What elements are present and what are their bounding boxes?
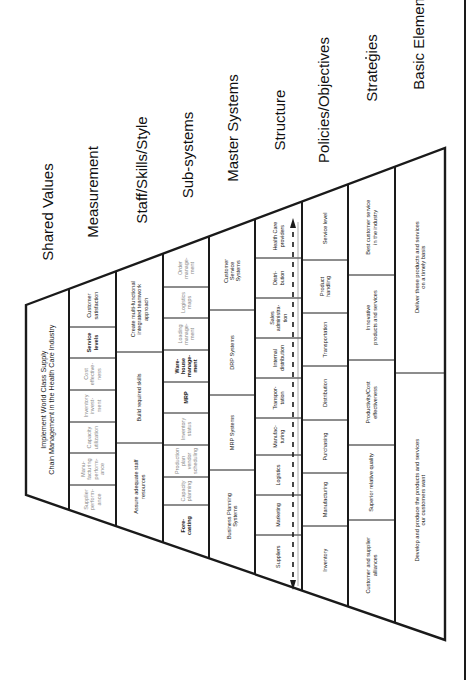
cell-label: approach bbox=[143, 298, 149, 321]
layer-cell: Superior relative quality bbox=[368, 453, 374, 512]
cell-label: levels bbox=[93, 335, 99, 351]
cell-label: Innovative bbox=[365, 305, 371, 331]
cell-label: ance bbox=[99, 463, 105, 475]
layer-title: Staff/Skills/Style bbox=[133, 116, 150, 223]
pyramid-svg: Shared ValuesMeasurementStaff/Skills/Sty… bbox=[0, 0, 471, 680]
cell-label: effective- bbox=[89, 363, 95, 386]
layer-cell: Manufacturing bbox=[322, 482, 328, 517]
cell-label: house bbox=[180, 358, 186, 374]
layer-cell: Distribution bbox=[322, 379, 328, 407]
cell-label: vendor bbox=[186, 453, 192, 470]
cell-label: Develop and produce the products and ser… bbox=[414, 439, 420, 562]
cell-label: Create multi-functional bbox=[130, 281, 136, 337]
cell-label: Cost bbox=[83, 368, 89, 380]
cell-label: effectiveness bbox=[372, 386, 378, 419]
cell-label: maps bbox=[186, 296, 192, 309]
cell-label: Inventory bbox=[322, 549, 328, 572]
cell-label: Health Care bbox=[272, 222, 278, 251]
cell-label: status bbox=[186, 422, 192, 437]
cell-label: satisfaction bbox=[93, 292, 99, 320]
cell-label: providers bbox=[278, 225, 284, 247]
cell-label: Capacity bbox=[180, 480, 186, 501]
cell-label: MRP Systems bbox=[229, 415, 235, 451]
layer-cell: Logistics bbox=[275, 464, 281, 485]
cell-label: tion bbox=[282, 314, 288, 323]
cell-label: Logistics bbox=[275, 464, 281, 485]
cell-label: products and services bbox=[372, 290, 378, 345]
cell-label: Internal bbox=[272, 349, 278, 367]
cell-label: Logistics bbox=[180, 292, 186, 313]
cell-label: handling bbox=[325, 276, 331, 297]
cell-label: our customers want bbox=[420, 475, 426, 526]
cell-label: Assure adequate staff bbox=[133, 459, 139, 514]
cell-label: alliances bbox=[372, 554, 378, 576]
cell-label: Manu- bbox=[80, 461, 86, 477]
layer-cell: Distri-bution bbox=[272, 271, 284, 286]
cell-label: utilization bbox=[93, 426, 99, 449]
cell-label: ness bbox=[96, 368, 102, 380]
layer-cell: MRP bbox=[183, 391, 189, 403]
layer-cell: Producthandling bbox=[319, 276, 331, 297]
layer-cell: Fore-casting bbox=[180, 516, 192, 535]
cell-label: Systems bbox=[232, 505, 238, 527]
layer-title: Basic Elements bbox=[410, 0, 427, 90]
cell-label: scheduling bbox=[192, 448, 198, 474]
cell-label: administra- bbox=[275, 304, 281, 331]
cell-label: Manufacturing bbox=[322, 482, 328, 517]
layer-title: Policies/Objectives bbox=[315, 37, 332, 163]
cell-label: Distribution bbox=[322, 379, 328, 407]
cell-label: MRP bbox=[183, 391, 189, 403]
cell-label: Capacity bbox=[86, 426, 92, 448]
cell-label: distribution bbox=[278, 345, 284, 371]
cell-label: Transpor- bbox=[272, 386, 278, 409]
cell-label: ment bbox=[189, 262, 195, 274]
layer-cell: Customersatisfaction bbox=[86, 292, 98, 320]
cell-label: Fore- bbox=[180, 519, 186, 533]
cell-label: Distri- bbox=[272, 271, 278, 285]
cell-label: facturing bbox=[86, 458, 92, 479]
layer-title: Measurement bbox=[84, 145, 101, 238]
layer-title: Structure bbox=[271, 90, 288, 151]
cell-label: Production bbox=[174, 448, 180, 474]
supply-chain-pyramid-diagram: Shared ValuesMeasurementStaff/Skills/Sty… bbox=[0, 0, 471, 680]
layer-cell: Suppliers bbox=[275, 545, 281, 568]
cell-label: ance bbox=[96, 493, 102, 505]
layer-cell: CustomerServiceSystems bbox=[223, 259, 242, 283]
cell-label: Inventory bbox=[83, 394, 89, 417]
cell-label: Productivity/Cost bbox=[365, 381, 371, 423]
cell-label: Customer bbox=[86, 293, 92, 317]
cell-label: Loading bbox=[177, 324, 183, 343]
layer-title: Shared Values bbox=[39, 163, 56, 260]
layer-cell: Marketing bbox=[275, 503, 281, 527]
cell-label: in the industry bbox=[372, 210, 378, 245]
cell-label: invest- bbox=[89, 398, 95, 415]
cell-label: manage- bbox=[183, 323, 189, 344]
cell-label: perform- bbox=[89, 489, 95, 510]
cell-label: Customer bbox=[223, 259, 229, 283]
layer-cell: Service level bbox=[322, 213, 328, 245]
cell-label: planning bbox=[186, 481, 192, 501]
cell-label: plan bbox=[180, 456, 186, 466]
cell-label: Service bbox=[229, 262, 235, 281]
cell-label: Ware- bbox=[174, 358, 180, 373]
stray-mark bbox=[365, 57, 367, 59]
cell-label: Manufac- bbox=[272, 425, 278, 448]
cell-label: Business Planning bbox=[226, 493, 232, 539]
cell-label: Customer and supplier bbox=[365, 537, 371, 593]
layer-cell: Health Careproviders bbox=[272, 222, 284, 251]
layer-title: Strategies bbox=[363, 34, 380, 102]
cell-label: Order bbox=[177, 261, 183, 275]
cell-label: Suppliers bbox=[275, 545, 281, 568]
cell-label: Inventory bbox=[180, 418, 186, 440]
cell-label: ment bbox=[192, 359, 198, 372]
cell-label: Chain Management in the Health Care Indu… bbox=[47, 324, 56, 475]
cell-label: resources bbox=[140, 474, 146, 499]
cell-label: Build required skills bbox=[136, 373, 142, 421]
cell-label: Sales bbox=[269, 311, 275, 325]
layer-cell: Productivity/Costeffectiveness bbox=[365, 381, 377, 423]
cell-label: Product bbox=[319, 276, 325, 296]
cell-label: Superior relative quality bbox=[368, 453, 374, 512]
cell-label: turing bbox=[278, 430, 284, 444]
layer-cell: Build required skills bbox=[136, 373, 142, 421]
cell-label: Service bbox=[86, 333, 92, 353]
